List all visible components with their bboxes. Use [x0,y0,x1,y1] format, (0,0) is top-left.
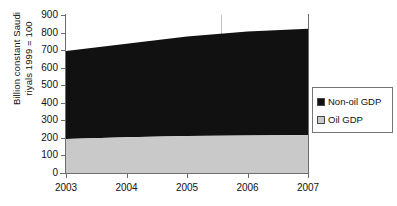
series-area-non-oil-gdp [66,29,308,139]
x-tick-label-2005: 2005 [157,182,217,193]
x-tick-label-2006: 2006 [218,182,278,193]
x-tick-2004 [127,174,128,178]
x-axis-line [60,173,309,174]
y-tick-label-100: 100 [18,150,58,160]
x-tick-label-2007: 2007 [278,182,338,193]
legend-item-non-oil-gdp: Non-oil GDP [317,94,392,110]
y-tick-label-700: 700 [18,45,58,55]
legend-swatch-oil-gdp [317,116,325,124]
plot-right-border [308,14,309,174]
series-area-oil-gdp [66,135,308,173]
y-tick-label-900: 900 [18,10,58,20]
series-plot [66,15,308,173]
x-tick-2005 [187,174,188,178]
y-tick-label-0: 0 [18,168,58,178]
y-tick-label-500: 500 [18,80,58,90]
x-tick-label-2004: 2004 [97,182,157,193]
legend-label-oil-gdp: Oil GDP [328,115,363,125]
x-tick-2003 [66,174,67,178]
legend-swatch-non-oil-gdp [317,98,325,106]
x-tick-2007 [308,174,309,178]
legend-label-non-oil-gdp: Non-oil GDP [328,97,381,107]
y-tick-label-600: 600 [18,63,58,73]
chart-container: Billion constant Saudi riyals 1999 = 100… [0,0,397,206]
x-tick-2006 [248,174,249,178]
y-tick-label-800: 800 [18,28,58,38]
y-tick-label-400: 400 [18,98,58,108]
legend: Non-oil GDP Oil GDP [312,87,393,133]
legend-item-oil-gdp: Oil GDP [317,112,392,128]
x-tick-label-2003: 2003 [36,182,96,193]
y-tick-label-300: 300 [18,115,58,125]
y-tick-label-200: 200 [18,133,58,143]
